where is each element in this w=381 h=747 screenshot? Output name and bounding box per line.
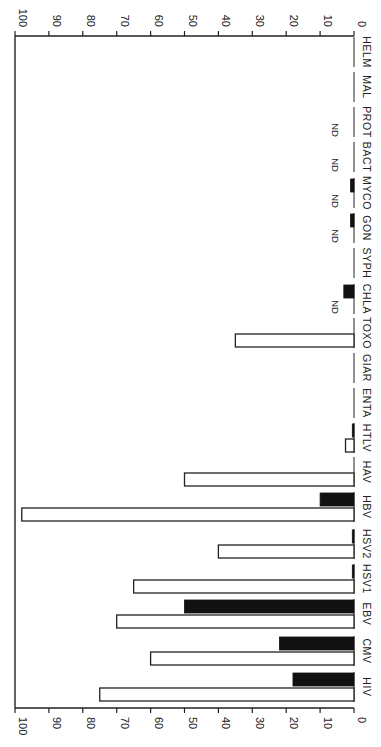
tick-label: 30 — [254, 15, 266, 27]
tick-label: 50 — [187, 15, 199, 27]
tick-label: 40 — [220, 15, 232, 27]
category-label-giar: GIAR — [361, 354, 373, 382]
nd-annotations: NDNDNDNDND — [330, 123, 341, 314]
tick-label: 10 — [322, 717, 334, 729]
tick-label: 70 — [119, 15, 131, 27]
category-label-hiv: HIV — [361, 677, 373, 696]
nd-label: ND — [330, 158, 341, 172]
bar-open-hsv2 — [218, 545, 354, 558]
tick-label: 40 — [220, 717, 232, 729]
bar-open-ebv — [117, 615, 354, 628]
tick-label: 80 — [85, 15, 97, 27]
category-label-ebv: EBV — [361, 603, 373, 626]
tick-label: 60 — [153, 717, 165, 729]
category-label-syph: SYPH — [361, 248, 373, 279]
category-labels: HIVCMVEBVHSV1HSV2HBVHAVHTLVENTAGIARTOXOC… — [361, 36, 373, 696]
bar-solid-hsv2 — [352, 530, 354, 543]
category-label-gon: GON — [361, 215, 373, 241]
bar-solid-hbv — [320, 493, 354, 506]
bar-solid-cmv — [279, 637, 354, 650]
category-label-hsv1: HSV1 — [361, 564, 373, 594]
category-label-enta: ENTA — [361, 388, 373, 418]
category-label-chla: CHLA — [361, 284, 373, 314]
category-label-mal: MAL — [361, 75, 373, 98]
bar-open-toxo — [235, 334, 354, 347]
category-label-hbv: HBV — [361, 495, 373, 518]
nd-label: ND — [330, 194, 341, 208]
bottom-axis-ticks: 0102030405060708090100 — [15, 708, 368, 735]
bar-open-hav — [185, 473, 355, 486]
tick-label: 0 — [356, 21, 368, 27]
category-label-helm: HELM — [361, 36, 373, 68]
tick-label: 0 — [356, 717, 368, 723]
bar-open-htlv — [346, 439, 354, 452]
tick-label: 20 — [288, 15, 300, 27]
nd-label: ND — [330, 300, 341, 314]
tick-label: 80 — [85, 717, 97, 729]
tick-label: 70 — [119, 717, 131, 729]
tick-label: 90 — [51, 15, 63, 27]
bar-solid-hsv1 — [352, 565, 354, 578]
tick-label: 100 — [17, 9, 29, 27]
category-label-prot: PROT — [361, 106, 373, 138]
tick-label: 100 — [17, 717, 29, 735]
category-label-htlv: HTLV — [361, 424, 373, 452]
category-label-hsv2: HSV2 — [361, 529, 373, 559]
bar-open-hiv — [100, 688, 354, 701]
category-label-bact: BACT — [361, 142, 373, 172]
bar-solid-chla — [344, 285, 354, 298]
category-label-toxo: TOXO — [361, 317, 373, 349]
category-label-cmv: CMV — [361, 638, 373, 663]
bar-solid-htlv — [352, 424, 354, 437]
nd-label: ND — [330, 123, 341, 137]
nd-label: ND — [330, 229, 341, 243]
tick-label: 60 — [153, 15, 165, 27]
bar-open-hsv1 — [134, 580, 354, 593]
category-label-hav: HAV — [361, 461, 373, 484]
tick-label: 30 — [254, 717, 266, 729]
tick-label: 50 — [187, 717, 199, 729]
bar-solid-myco — [351, 179, 354, 192]
bar-open-cmv — [151, 652, 354, 665]
bar-solid-gon — [351, 214, 354, 227]
bars — [22, 37, 354, 702]
top-axis-ticks: 0102030405060708090100 — [15, 9, 368, 36]
bar-chart: 0102030405060708090100 01020304050607080… — [0, 0, 381, 747]
bar-solid-hiv — [293, 673, 354, 686]
bar-open-hbv — [22, 508, 354, 521]
tick-label: 20 — [288, 717, 300, 729]
category-label-myco: MYCO — [361, 176, 373, 210]
bar-solid-ebv — [185, 600, 355, 613]
tick-label: 10 — [322, 15, 334, 27]
tick-label: 90 — [51, 717, 63, 729]
